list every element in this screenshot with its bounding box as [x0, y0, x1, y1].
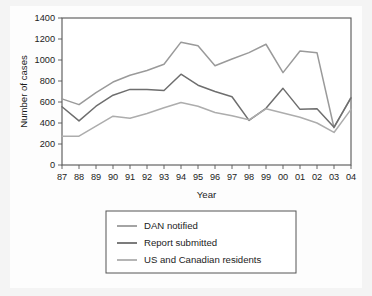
- y-tick-label: 200: [40, 139, 55, 149]
- x-tick-label: 00: [278, 172, 288, 182]
- x-tick-label: 04: [346, 172, 356, 182]
- plot-background: [62, 18, 351, 165]
- legend-label: DAN notified: [144, 220, 198, 231]
- x-tick-label: 96: [210, 172, 220, 182]
- x-tick-label: 03: [329, 172, 339, 182]
- x-tick-label: 94: [176, 172, 186, 182]
- figure-container: 0200400600800100012001400878889909192939…: [0, 0, 372, 296]
- x-tick-label: 95: [193, 172, 203, 182]
- x-tick-label: 92: [142, 172, 152, 182]
- line-chart: 0200400600800100012001400878889909192939…: [10, 6, 362, 288]
- x-tick-label: 87: [57, 172, 67, 182]
- legend-label: Report submitted: [144, 237, 217, 248]
- x-axis-title: Year: [197, 189, 217, 200]
- x-tick-label: 90: [108, 172, 118, 182]
- y-axis-title: Number of cases: [18, 55, 29, 128]
- y-tick-label: 1000: [35, 55, 55, 65]
- x-tick-label: 01: [295, 172, 305, 182]
- y-tick-label: 0: [50, 160, 55, 170]
- x-tick-label: 89: [91, 172, 101, 182]
- y-tick-label: 400: [40, 118, 55, 128]
- x-tick-label: 88: [74, 172, 84, 182]
- x-tick-label: 02: [312, 172, 322, 182]
- x-tick-label: 99: [261, 172, 271, 182]
- legend-label: US and Canadian residents: [144, 254, 262, 265]
- x-tick-label: 93: [159, 172, 169, 182]
- figure-inner-panel: 0200400600800100012001400878889909192939…: [10, 6, 362, 288]
- x-tick-label: 98: [244, 172, 254, 182]
- y-tick-label: 1200: [35, 34, 55, 44]
- y-tick-label: 600: [40, 97, 55, 107]
- y-tick-label: 800: [40, 76, 55, 86]
- y-tick-label: 1400: [35, 13, 55, 23]
- x-tick-label: 91: [125, 172, 135, 182]
- x-tick-label: 97: [227, 172, 237, 182]
